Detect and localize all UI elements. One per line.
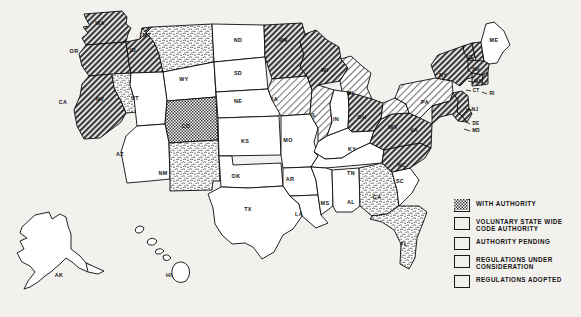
state-label-nh: NH bbox=[472, 67, 480, 72]
state-label-ar: AR bbox=[286, 176, 295, 182]
legend-swatch-authority-pending-icon bbox=[454, 237, 470, 250]
state-label-mn: MN bbox=[278, 37, 287, 43]
legend-label: WITH AUTHORITY bbox=[476, 199, 536, 208]
state-label-ct: CT bbox=[473, 88, 480, 93]
state-label-mt: MT bbox=[143, 32, 152, 38]
state-label-md: MD bbox=[472, 128, 480, 133]
state-ks[interactable] bbox=[218, 116, 281, 156]
state-label-me: ME bbox=[490, 37, 499, 43]
state-wa[interactable] bbox=[82, 11, 131, 45]
state-label-ri: RI bbox=[490, 91, 495, 96]
state-label-nc: NC bbox=[398, 162, 407, 168]
legend-label: REGULATIONS UNDER CONSIDERATION bbox=[476, 255, 553, 271]
state-label-sd: SD bbox=[234, 70, 242, 76]
state-label-hi: HI bbox=[166, 272, 172, 278]
state-label-az: AZ bbox=[116, 151, 124, 157]
state-label-id: ID bbox=[130, 47, 136, 53]
legend-row-regulations-adopted[interactable]: REGULATIONS ADOPTED bbox=[454, 275, 581, 288]
legend-row-authority-pending[interactable]: AUTHORITY PENDING bbox=[454, 237, 581, 250]
states-layer bbox=[17, 11, 510, 289]
legend-swatch-voluntary-state-wide-icon bbox=[454, 217, 470, 230]
state-label-ca: CA bbox=[59, 99, 68, 105]
state-ok[interactable] bbox=[219, 156, 283, 188]
legend-label: REGULATIONS ADOPTED bbox=[476, 275, 562, 284]
legend-swatch-regulations-under-review-icon bbox=[454, 255, 470, 268]
legend-swatch-regulations-adopted-icon bbox=[454, 275, 470, 288]
legend-row-regulations-under-review[interactable]: REGULATIONS UNDER CONSIDERATION bbox=[454, 255, 581, 271]
state-mn[interactable] bbox=[264, 23, 307, 79]
state-label-wi: WI bbox=[321, 67, 328, 73]
state-label-nv: NV bbox=[96, 96, 104, 102]
state-label-va: VA bbox=[410, 127, 418, 133]
state-label-sc: SC bbox=[396, 178, 404, 184]
state-label-ga: GA bbox=[373, 194, 382, 200]
state-label-ok: OK bbox=[232, 173, 241, 179]
state-label-ky: KY bbox=[348, 146, 356, 152]
state-fl[interactable] bbox=[370, 206, 427, 269]
state-label-wv: WV bbox=[388, 124, 397, 130]
state-label-vt: VT bbox=[467, 55, 473, 60]
state-hi[interactable] bbox=[135, 226, 189, 282]
state-ak-aleutian-tail bbox=[86, 263, 104, 274]
state-label-fl: FL bbox=[400, 241, 408, 247]
legend-row-with-authority[interactable]: WITH AUTHORITY bbox=[454, 199, 581, 212]
state-label-nm: NM bbox=[158, 170, 167, 176]
state-tx[interactable] bbox=[208, 186, 302, 259]
state-label-wa: WA bbox=[95, 20, 104, 26]
state-label-in: IN bbox=[333, 116, 339, 122]
state-co[interactable] bbox=[165, 97, 218, 143]
state-label-mi: MI bbox=[347, 90, 354, 96]
state-label-ne: NE bbox=[234, 98, 242, 104]
state-label-ny: NY bbox=[439, 72, 447, 78]
state-label-co: CO bbox=[182, 123, 191, 129]
state-label-nj: NJ bbox=[472, 107, 479, 112]
state-label-mo: MO bbox=[283, 137, 292, 143]
legend-label: AUTHORITY PENDING bbox=[476, 237, 550, 246]
legend-row-voluntary-state-wide[interactable]: VOLUNTARY STATE WIDE CODE AUTHORITY bbox=[454, 217, 581, 233]
map-figure: WAORCANVIDMTWYUTCOAZNMNDSDNEKSOKTXMNIAMO… bbox=[0, 0, 581, 317]
map-legend: WITH AUTHORITYVOLUNTARY STATE WIDE CODE … bbox=[454, 199, 581, 293]
state-label-ms: MS bbox=[321, 200, 330, 206]
state-label-wy: WY bbox=[179, 76, 188, 82]
state-label-tx: TX bbox=[244, 206, 252, 212]
state-label-oh: OH bbox=[358, 114, 367, 120]
state-al[interactable] bbox=[332, 168, 360, 212]
state-label-de: DE bbox=[473, 121, 480, 126]
state-label-or: OR bbox=[70, 48, 79, 54]
state-nm[interactable] bbox=[169, 140, 220, 191]
state-label-ma: MA bbox=[474, 79, 482, 84]
state-label-ks: KS bbox=[241, 138, 249, 144]
state-label-pa: PA bbox=[421, 99, 429, 105]
state-label-ak: AK bbox=[55, 272, 64, 278]
state-label-nd: ND bbox=[234, 37, 243, 43]
legend-label: VOLUNTARY STATE WIDE CODE AUTHORITY bbox=[476, 217, 562, 233]
state-label-ut: UT bbox=[131, 95, 139, 101]
state-label-al: AL bbox=[347, 199, 355, 205]
state-label-tn: TN bbox=[347, 170, 355, 176]
state-label-ia: IA bbox=[272, 96, 278, 102]
state-label-il: IL bbox=[311, 112, 317, 118]
state-or[interactable] bbox=[79, 42, 131, 76]
state-label-la: LA bbox=[295, 211, 303, 217]
